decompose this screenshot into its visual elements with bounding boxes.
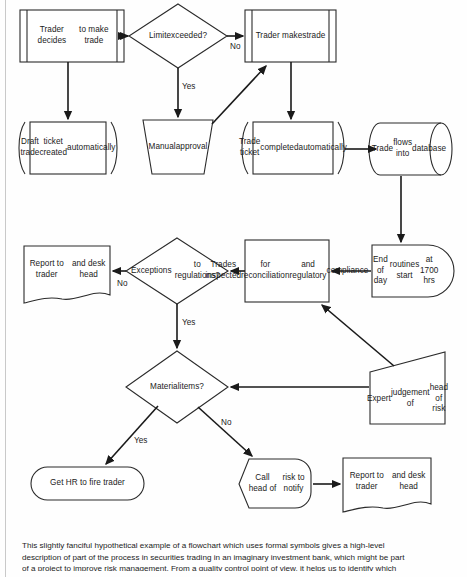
node-material-items[interactable] <box>126 351 228 423</box>
node-manual-approval[interactable] <box>143 120 213 174</box>
node-trader-makes[interactable] <box>245 10 336 62</box>
caption-line-1: This slightly fanciful hypothetical exam… <box>22 540 452 552</box>
edge-material-yes <box>106 406 158 464</box>
node-trade-database[interactable] <box>369 123 452 175</box>
node-trader-decides[interactable] <box>20 10 124 62</box>
edge-label-exceptions-yes: Yes <box>182 318 195 328</box>
edge-expert-to-inspected <box>322 305 394 366</box>
edge-label-limit-yes: Yes <box>182 82 195 92</box>
flowchart-page: Trader decidesto make trade Limitexceede… <box>0 0 467 577</box>
node-exceptions[interactable] <box>126 238 228 304</box>
caption-line-2: description of part of the process in se… <box>22 552 452 564</box>
edge-label-material-yes: Yes <box>134 436 147 446</box>
figure-caption: This slightly fanciful hypothetical exam… <box>22 540 452 571</box>
node-call-head-risk[interactable] <box>239 459 311 508</box>
node-ticket-completed[interactable] <box>242 122 344 174</box>
flowchart-canvas <box>0 0 467 577</box>
edge-label-exceptions-no: No <box>117 279 127 289</box>
node-limit-exceeded[interactable] <box>129 4 227 68</box>
edge-approval-to-trade <box>212 66 266 124</box>
node-draft-ticket[interactable] <box>19 122 117 174</box>
edge-label-limit-no: No <box>230 42 240 52</box>
edge-label-material-no: No <box>221 418 231 428</box>
node-report-top[interactable] <box>24 246 110 303</box>
node-fire-trader[interactable] <box>31 467 144 500</box>
node-expert-judgement[interactable] <box>370 352 445 424</box>
node-report-bottom[interactable] <box>343 458 431 512</box>
edge-material-no <box>198 407 252 456</box>
node-trades-inspected[interactable] <box>245 240 329 302</box>
node-end-of-day[interactable] <box>372 245 454 297</box>
caption-line-3: of a project to improve risk management.… <box>22 563 452 571</box>
